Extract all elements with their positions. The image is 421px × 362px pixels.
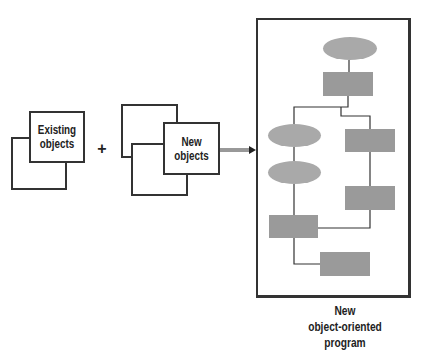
flowchart-left-oval-2 xyxy=(268,161,321,184)
flowchart-left-rect xyxy=(269,215,318,238)
flowchart-top-oval xyxy=(323,37,377,60)
flowchart-top-rect xyxy=(323,72,373,96)
flowchart-left-oval-1 xyxy=(268,124,321,147)
arrow-head-icon xyxy=(249,146,256,154)
program-caption: New object-oriented program xyxy=(300,303,390,351)
flowchart-right-rect-1 xyxy=(345,129,395,152)
flowchart-bottom-rect xyxy=(320,252,370,276)
flowchart-right-rect-2 xyxy=(345,186,395,210)
